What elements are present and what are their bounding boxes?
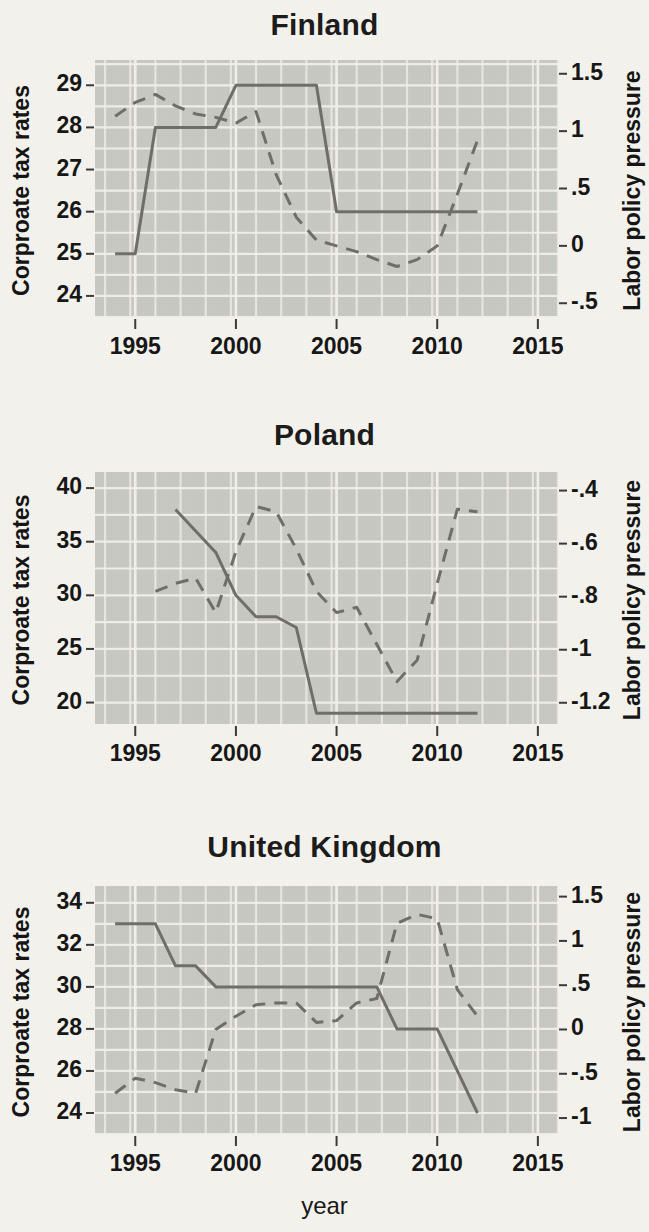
y2-axis-tick-label: 1 bbox=[571, 116, 584, 143]
left-axis-title: Corproate tax rates bbox=[8, 886, 35, 1138]
y2-axis-tick-label: -.5 bbox=[571, 288, 598, 315]
y2-axis-tick-label: -.4 bbox=[571, 476, 598, 503]
y2-axis-tick-label: .5 bbox=[571, 174, 590, 201]
y2-axis-tick-label: -.6 bbox=[571, 529, 598, 556]
plot-background bbox=[95, 472, 558, 724]
y-axis-tick-label: 32 bbox=[56, 930, 82, 957]
x-axis-tick-label: 2005 bbox=[297, 1150, 377, 1177]
x-axis-tick-label: 2000 bbox=[196, 1150, 276, 1177]
chart-panel-finland: Finland2928272625241.51.50-.519952000200… bbox=[0, 0, 649, 410]
x-axis-tick-label: 2010 bbox=[397, 333, 477, 360]
chart-panel-poland: Poland4035302520-.4-.6-.8-1-1.2199520002… bbox=[0, 410, 649, 820]
x-axis-tick-label: 2015 bbox=[498, 740, 578, 767]
y-axis-tick-label: 25 bbox=[56, 634, 82, 661]
y2-axis-tick-label: 1 bbox=[571, 926, 584, 953]
y-axis-tick-label: 26 bbox=[56, 1056, 82, 1083]
y2-axis-tick-label: -1 bbox=[571, 1103, 591, 1130]
left-axis-title: Corproate tax rates bbox=[8, 60, 35, 321]
y2-axis-tick-label: -1 bbox=[571, 635, 591, 662]
y2-axis-tick-label: 1.5 bbox=[571, 882, 603, 909]
x-axis-tick-label: 2000 bbox=[196, 740, 276, 767]
y-axis-tick-label: 30 bbox=[56, 972, 82, 999]
x-axis-tick-label: 2000 bbox=[196, 333, 276, 360]
right-axis-title: Labor policy pressure bbox=[619, 50, 646, 331]
right-axis-title: Labor policy pressure bbox=[619, 462, 646, 738]
y-axis-tick-label: 35 bbox=[56, 527, 82, 554]
y2-axis-tick-label: -1.2 bbox=[571, 688, 611, 715]
x-axis-tick-label: 2010 bbox=[397, 1150, 477, 1177]
y2-axis-tick-label: .5 bbox=[571, 970, 590, 997]
y-axis-tick-label: 28 bbox=[56, 112, 82, 139]
x-axis-tick-label: 1995 bbox=[95, 333, 175, 360]
y2-axis-tick-label: -.8 bbox=[571, 582, 598, 609]
y2-axis-tick-label: 1.5 bbox=[571, 59, 603, 86]
x-axis-tick-label: 2005 bbox=[297, 740, 377, 767]
y-axis-tick-label: 20 bbox=[56, 688, 82, 715]
left-axis-title: Corproate tax rates bbox=[8, 472, 35, 728]
y2-axis-tick-label: -.5 bbox=[571, 1059, 598, 1086]
x-axis-tick-label: 1995 bbox=[95, 1150, 175, 1177]
y-axis-tick-label: 24 bbox=[56, 281, 82, 308]
y-axis-tick-label: 26 bbox=[56, 197, 82, 224]
x-axis-tick-label: 2010 bbox=[397, 740, 477, 767]
y2-axis-tick-label: 0 bbox=[571, 231, 584, 258]
y-axis-tick-label: 25 bbox=[56, 239, 82, 266]
chart-panel-united-kingdom: United Kingdom3432302826241.51.50-.5-119… bbox=[0, 820, 649, 1230]
x-axis-tick-label: 1995 bbox=[95, 740, 175, 767]
y-axis-tick-label: 34 bbox=[56, 888, 82, 915]
y2-axis-tick-label: 0 bbox=[571, 1014, 584, 1041]
y-axis-tick-label: 27 bbox=[56, 155, 82, 182]
y-axis-tick-label: 40 bbox=[56, 473, 82, 500]
x-axis-tick-label: 2015 bbox=[498, 1150, 578, 1177]
x-axis-tick-label: 2005 bbox=[297, 333, 377, 360]
y-axis-tick-label: 29 bbox=[56, 70, 82, 97]
right-axis-title: Labor policy pressure bbox=[619, 876, 646, 1148]
y-axis-tick-label: 24 bbox=[56, 1098, 82, 1125]
x-axis-title: year bbox=[0, 1192, 649, 1220]
y-axis-tick-label: 30 bbox=[56, 580, 82, 607]
x-axis-tick-label: 2015 bbox=[498, 333, 578, 360]
y-axis-tick-label: 28 bbox=[56, 1014, 82, 1041]
